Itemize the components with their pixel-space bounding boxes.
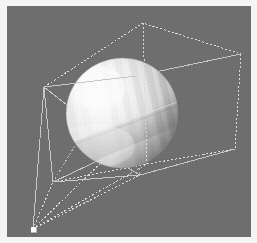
- scene-canvas[interactable]: [7, 6, 251, 237]
- viewport-frame: [0, 0, 257, 243]
- ellipsoid-object[interactable]: [55, 45, 193, 186]
- cone-edge-to-back-bottom: [33, 175, 140, 229]
- ellipsoid-specular-highlight: [73, 66, 125, 110]
- fan-edge-b: [44, 87, 53, 182]
- cone-edge-to-base: [33, 164, 147, 229]
- 3d-render-viewport[interactable]: [7, 6, 251, 237]
- application-root: 3D Viewport Perspective Sphere Bounding …: [0, 0, 257, 243]
- box-edge-right: [235, 54, 241, 149]
- cone-edge-to-top-left: [33, 87, 44, 229]
- selected-vertex-marker[interactable]: [31, 227, 36, 232]
